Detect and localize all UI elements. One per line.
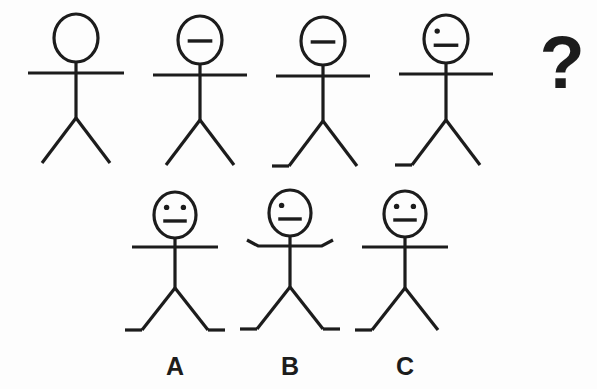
left-leg-line	[412, 120, 446, 165]
right-eye-dot	[411, 204, 416, 209]
left-leg-line	[257, 287, 290, 329]
sequence-row: ?	[28, 14, 585, 166]
left-leg-line	[289, 121, 323, 166]
sequence-figure-4	[395, 15, 493, 165]
head-outline	[269, 190, 311, 236]
option-b[interactable]	[240, 190, 340, 329]
puzzle-canvas: ? ABC	[0, 0, 597, 389]
right-leg-line	[446, 120, 480, 165]
missing-figure-question-mark: ?	[539, 21, 584, 104]
left-eye-dot	[435, 28, 440, 33]
right-leg-line	[175, 288, 208, 330]
sequence-figure-3	[272, 17, 370, 166]
option-a-label: A	[166, 352, 184, 380]
right-leg-line	[76, 118, 110, 163]
left-leg-line	[166, 120, 200, 165]
right-leg-line	[405, 288, 438, 330]
sequence-figure-1	[28, 14, 124, 163]
head-outline	[424, 15, 468, 63]
right-leg-line	[200, 120, 234, 165]
right-leg-line	[323, 121, 357, 166]
option-c-label: C	[396, 352, 414, 380]
option-a[interactable]	[125, 192, 225, 330]
answer-options-row: ABC	[125, 190, 448, 380]
left-eye-dot	[394, 204, 399, 209]
right-eye-dot	[181, 205, 186, 210]
option-b-label: B	[281, 352, 299, 380]
head-outline	[154, 192, 196, 238]
left-leg-line	[142, 288, 175, 330]
sequence-figure-2	[153, 16, 247, 165]
right-leg-line	[290, 287, 323, 329]
left-leg-line	[372, 288, 405, 330]
left-eye-dot	[279, 203, 284, 208]
head-outline	[384, 191, 426, 237]
left-leg-line	[42, 118, 76, 163]
option-c[interactable]	[355, 191, 448, 330]
head-outline	[54, 14, 98, 62]
left-eye-dot	[164, 205, 169, 210]
